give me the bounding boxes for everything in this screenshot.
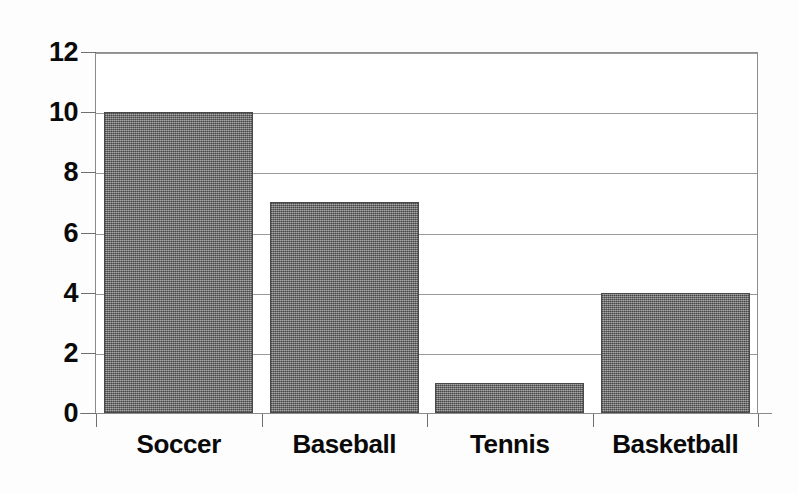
x-axis-tick-mark bbox=[96, 414, 97, 427]
y-axis-tick-mark bbox=[81, 172, 96, 173]
y-axis-labels: 121086420 bbox=[22, 0, 78, 493]
x-axis-tick-mark bbox=[593, 414, 594, 427]
y-axis-tick-label: 8 bbox=[22, 159, 78, 186]
y-axis-tick-label: 12 bbox=[22, 39, 78, 66]
y-axis-tick-mark bbox=[81, 353, 96, 354]
y-axis-tick-label: 4 bbox=[22, 279, 78, 306]
x-axis-line bbox=[80, 413, 772, 414]
x-axis-category-label: Tennis bbox=[427, 430, 593, 476]
x-axis-category-label: Soccer bbox=[96, 430, 262, 476]
x-axis-category-label: Baseball bbox=[262, 430, 428, 476]
y-axis-tick-mark bbox=[81, 413, 96, 414]
y-axis-tick-label: 10 bbox=[22, 99, 78, 126]
y-axis-tick-mark bbox=[81, 52, 96, 53]
gridline bbox=[96, 53, 757, 54]
y-axis-tick-label: 0 bbox=[22, 400, 78, 427]
y-axis-tick-mark bbox=[81, 293, 96, 294]
bar-tennis bbox=[435, 383, 584, 413]
y-axis-tick-label: 6 bbox=[22, 219, 78, 246]
y-axis-tick-mark bbox=[81, 233, 96, 234]
x-axis-tick-mark bbox=[262, 414, 263, 427]
bar-soccer bbox=[104, 112, 253, 413]
x-axis-tick-mark bbox=[427, 414, 428, 427]
y-axis-tick-label: 2 bbox=[22, 339, 78, 366]
plot-area bbox=[96, 52, 758, 413]
x-axis-category-label: Basketball bbox=[593, 430, 759, 476]
bar-chart: 121086420 SoccerBaseballTennisBasketball bbox=[0, 0, 798, 493]
bar-basketball bbox=[601, 293, 750, 413]
y-axis-tick-mark bbox=[81, 112, 96, 113]
x-axis-tick-mark bbox=[758, 414, 759, 427]
x-axis-labels: SoccerBaseballTennisBasketball bbox=[96, 430, 758, 476]
bar-baseball bbox=[270, 202, 419, 413]
